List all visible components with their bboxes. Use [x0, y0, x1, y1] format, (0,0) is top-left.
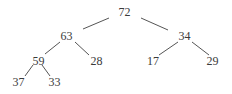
binary-tree-diagram: 726334592817293733 [0, 0, 232, 94]
tree-edge-72-34 [141, 18, 168, 30]
tree-node-29: 29 [207, 54, 219, 68]
tree-node-17: 17 [147, 54, 159, 68]
tree-node-72: 72 [119, 5, 131, 19]
tree-node-34: 34 [179, 29, 191, 43]
tree-edge-34-17 [159, 42, 178, 55]
tree-node-37: 37 [13, 75, 25, 89]
tree-node-28: 28 [91, 54, 103, 68]
tree-nodes: 726334592817293733 [13, 5, 219, 89]
tree-node-59: 59 [33, 54, 45, 68]
tree-node-63: 63 [61, 29, 73, 43]
tree-edge-72-63 [83, 18, 109, 29]
tree-edge-63-28 [75, 42, 89, 55]
tree-edge-63-59 [45, 42, 60, 54]
tree-node-33: 33 [49, 75, 61, 89]
tree-edges [25, 18, 209, 76]
